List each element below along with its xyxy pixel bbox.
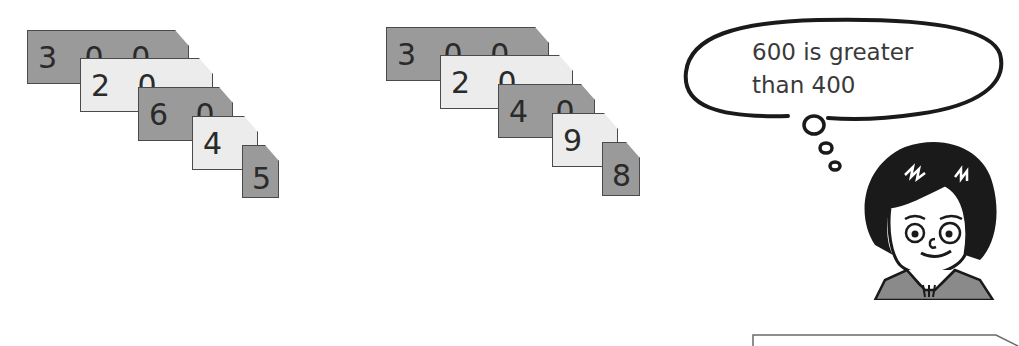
card-ones: 8	[602, 142, 640, 196]
card-label: 9 0	[563, 123, 591, 167]
thought-text: 600 is greater than 400	[752, 36, 982, 102]
card-label: 5	[252, 161, 279, 196]
thought-dots-icon	[800, 110, 850, 180]
thought-line-1: 600 is greater	[752, 36, 982, 69]
girl-character-icon	[845, 135, 1005, 300]
card-ones: 5	[242, 145, 279, 198]
answer-card-outline	[752, 334, 1019, 346]
card-label: 4 0	[203, 126, 231, 170]
thought-line-2: than 400	[752, 69, 982, 102]
card-label: 8	[612, 158, 640, 193]
